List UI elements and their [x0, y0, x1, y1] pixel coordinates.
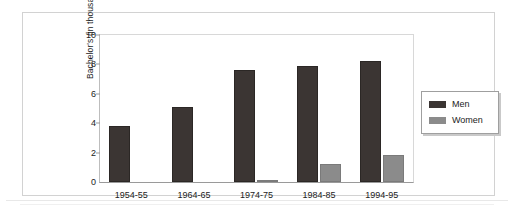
bar-women-1974-75 — [257, 180, 278, 182]
chart-frame: Bachelor's (in thousands) 0246810 1954-5… — [22, 12, 495, 196]
x-tick-label-1984-85: 1984-85 — [284, 190, 354, 200]
page-rule-upper — [6, 200, 508, 201]
x-tick-label-1954-55: 1954-55 — [96, 190, 166, 200]
bar-group-1974-75 — [225, 35, 288, 182]
legend-label-men: Men — [452, 99, 470, 109]
legend-swatch-icon-men — [429, 101, 446, 108]
page-rule-lower — [20, 204, 494, 205]
x-tick-label-1994-95: 1994-95 — [347, 190, 417, 200]
y-tick-label-2: 2 — [70, 148, 96, 158]
y-tick-label-0: 0 — [70, 177, 96, 187]
y-tick-label-6: 6 — [70, 89, 96, 99]
legend-label-women: Women — [452, 115, 483, 125]
x-tick-label-1974-75: 1974-75 — [222, 190, 292, 200]
y-tick-label-10: 10 — [70, 30, 96, 40]
bar-men-1964-65 — [172, 107, 193, 182]
chart-legend: MenWomen — [421, 91, 499, 134]
legend-swatch-icon-women — [429, 117, 446, 124]
bar-men-1954-55 — [109, 126, 130, 182]
plot-area: Bachelor's (in thousands) 0246810 1954-5… — [99, 34, 414, 183]
bar-men-1984-85 — [297, 66, 318, 182]
legend-item-men[interactable]: Men — [429, 97, 492, 111]
bar-group-1954-55 — [100, 35, 163, 182]
bar-women-1994-95 — [383, 155, 404, 182]
chart-figure: Bachelor's (in thousands) 0246810 1954-5… — [0, 0, 514, 209]
bar-men-1994-95 — [360, 61, 381, 182]
bar-group-1994-95 — [350, 35, 413, 182]
bar-women-1984-85 — [320, 164, 341, 182]
bar-men-1974-75 — [234, 70, 255, 182]
bar-group-1984-85 — [288, 35, 351, 182]
legend-item-women[interactable]: Women — [429, 113, 492, 127]
y-tick-label-8: 8 — [70, 59, 96, 69]
x-tick-label-1964-65: 1964-65 — [159, 190, 229, 200]
y-tick-label-4: 4 — [70, 118, 96, 128]
bar-group-1964-65 — [163, 35, 226, 182]
